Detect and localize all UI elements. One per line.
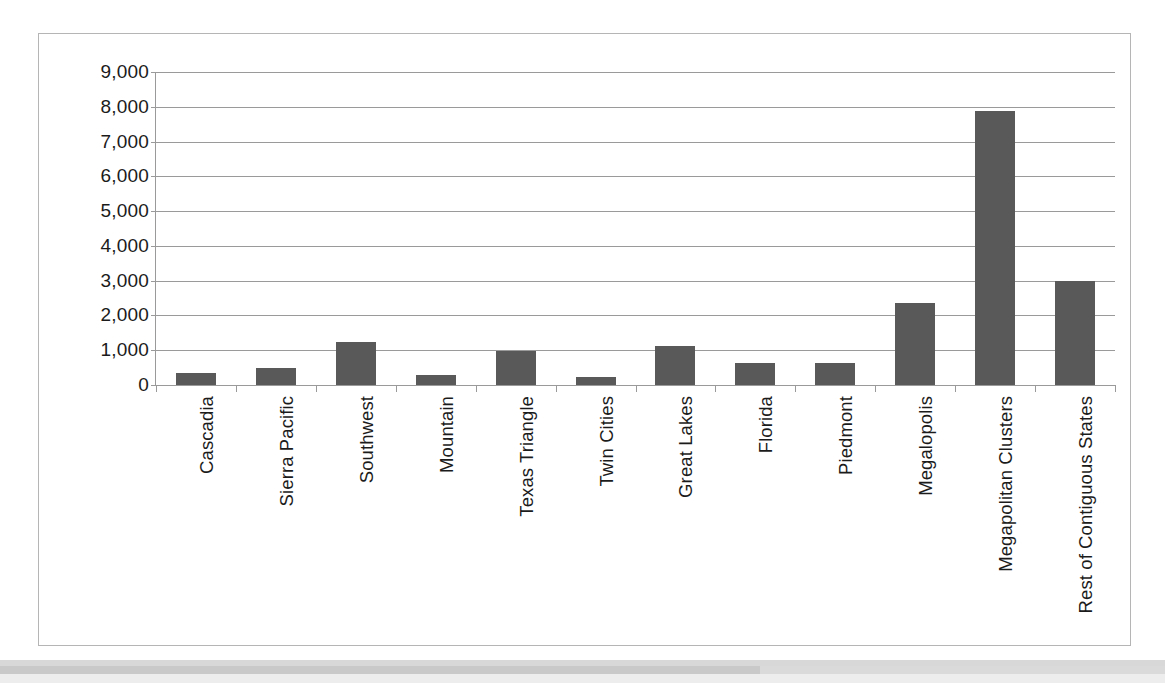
x-axis-tick [236, 385, 237, 392]
bars-layer [156, 72, 1115, 385]
y-axis-tick-label: 3,000 [100, 270, 149, 292]
x-axis-category-label: Megapolitan Clusters [995, 396, 1017, 572]
x-axis-label-holder: Twin Cities [596, 396, 597, 397]
x-axis-label-holder: Texas Triangle [516, 396, 517, 397]
x-axis-label-holder: Piedmont [835, 396, 836, 397]
x-axis-category-label: Great Lakes [675, 396, 697, 498]
y-axis-tick-label: 7,000 [100, 131, 149, 153]
bar[interactable] [975, 111, 1015, 385]
x-axis-label-holder: Rest of Contiguous States [1075, 396, 1076, 397]
x-axis-category-label: Florida [755, 396, 777, 453]
y-axis-tick-label: 9,000 [100, 61, 149, 83]
page-scan-edge-strip [0, 674, 1165, 683]
chart-figure-frame: 9,0008,0007,0006,0005,0004,0003,0002,000… [38, 33, 1131, 646]
page-scan-edge-strip [760, 666, 1165, 674]
x-axis-label-holder: Mountain [436, 396, 437, 397]
x-axis-tick [316, 385, 317, 392]
y-axis-tick-label: 5,000 [100, 200, 149, 222]
x-axis-tick [1035, 385, 1036, 392]
x-axis-tick [636, 385, 637, 392]
bar[interactable] [576, 377, 616, 385]
x-axis-label-holder: Southwest [356, 396, 357, 397]
x-axis-label-holder: Megalopolis [915, 396, 916, 397]
x-axis-category-label: Southwest [356, 396, 378, 483]
x-axis-label-holder: Sierra Pacific [276, 396, 277, 397]
x-axis-category-label: Cascadia [196, 396, 218, 474]
bar[interactable] [655, 346, 695, 385]
y-axis-tick-label: 2,000 [100, 304, 149, 326]
x-axis-tick [1115, 385, 1116, 392]
x-axis-tick [875, 385, 876, 392]
x-axis-tick [795, 385, 796, 392]
y-axis-tick-label: 1,000 [100, 339, 149, 361]
bar[interactable] [176, 373, 216, 385]
bar[interactable] [336, 342, 376, 385]
x-axis-tick [955, 385, 956, 392]
bar[interactable] [416, 375, 456, 385]
x-axis-category-label: Texas Triangle [516, 396, 538, 517]
y-axis-tick-label: 8,000 [100, 96, 149, 118]
x-axis-category-label: Megalopolis [915, 396, 937, 496]
x-axis-label-holder: Megapolitan Clusters [995, 396, 996, 397]
x-axis-category-label: Rest of Contiguous States [1075, 396, 1097, 613]
x-axis-tick [156, 385, 157, 392]
x-axis-tick [476, 385, 477, 392]
x-axis-label-holder: Cascadia [196, 396, 197, 397]
bar[interactable] [256, 368, 296, 385]
bar[interactable] [1055, 281, 1095, 385]
bar[interactable] [735, 363, 775, 385]
x-axis-category-label: Mountain [436, 396, 458, 473]
y-axis-tick-label: 0 [138, 374, 149, 396]
y-axis-tick-label: 4,000 [100, 235, 149, 257]
bar[interactable] [815, 363, 855, 385]
x-axis-label-holder: Florida [755, 396, 756, 397]
x-axis-category-label: Piedmont [835, 396, 857, 475]
x-axis-tick [715, 385, 716, 392]
x-axis-ticks [156, 385, 1115, 392]
page-scan-edge-strip [0, 666, 760, 674]
y-axis-tick-label: 6,000 [100, 165, 149, 187]
x-axis-tick [396, 385, 397, 392]
x-axis-label-holder: Great Lakes [675, 396, 676, 397]
bar[interactable] [496, 351, 536, 385]
x-axis-category-labels: CascadiaSierra PacificSouthwestMountainT… [156, 392, 1115, 622]
y-axis-tick-labels: 9,0008,0007,0006,0005,0004,0003,0002,000… [83, 72, 149, 385]
x-axis-tick [556, 385, 557, 392]
x-axis-category-label: Twin Cities [596, 396, 618, 487]
bar[interactable] [895, 303, 935, 385]
x-axis-category-label: Sierra Pacific [276, 396, 298, 506]
